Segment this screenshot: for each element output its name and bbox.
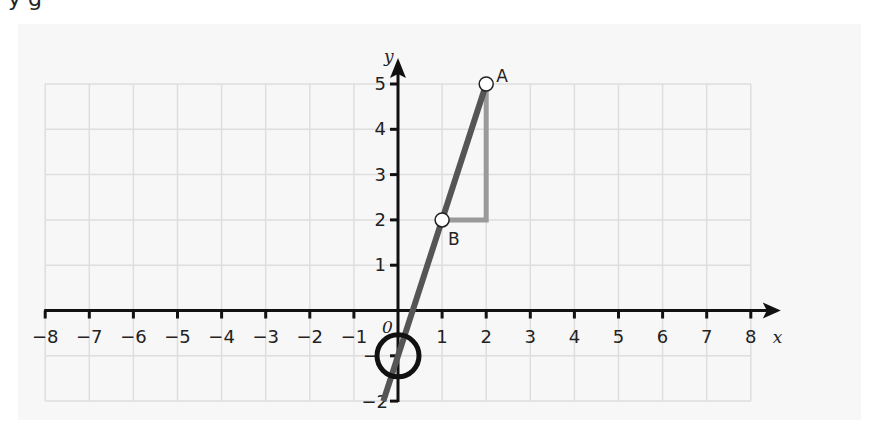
y-tick-label: 2: [375, 209, 386, 230]
x-tick-label: −4: [208, 326, 235, 347]
y-tick-label: 4: [375, 118, 386, 139]
x-tick-label: −8: [32, 326, 59, 347]
x-tick-label: 3: [525, 326, 536, 347]
x-tick-label: −5: [164, 326, 191, 347]
coordinate-graph: −8−7−6−5−4−3−2−11234567812345−−2xy0AB: [0, 0, 870, 428]
x-tick-label: −3: [252, 326, 279, 347]
x-tick-label: 4: [569, 326, 580, 347]
point-b-label: B: [448, 229, 460, 249]
x-tick-label: −6: [120, 326, 147, 347]
x-tick-label: −2: [297, 326, 324, 347]
y-tick-label: 1: [375, 254, 386, 275]
x-tick-label: −7: [76, 326, 103, 347]
x-axis-label: x: [773, 327, 783, 347]
y-tick-label: 3: [375, 164, 386, 185]
x-tick-label: 1: [436, 326, 447, 347]
point-a-icon: [479, 77, 493, 91]
x-tick-label: 6: [657, 326, 668, 347]
x-tick-label: 2: [480, 326, 491, 347]
point-b-icon: [435, 213, 449, 227]
point-a-label: A: [496, 66, 508, 86]
x-tick-label: −1: [341, 326, 368, 347]
x-tick-label: 7: [701, 326, 712, 347]
y-tick-label: 5: [375, 73, 386, 94]
x-tick-label: 5: [613, 326, 624, 347]
x-tick-label: 8: [745, 326, 756, 347]
y-axis-label: y: [383, 46, 394, 66]
